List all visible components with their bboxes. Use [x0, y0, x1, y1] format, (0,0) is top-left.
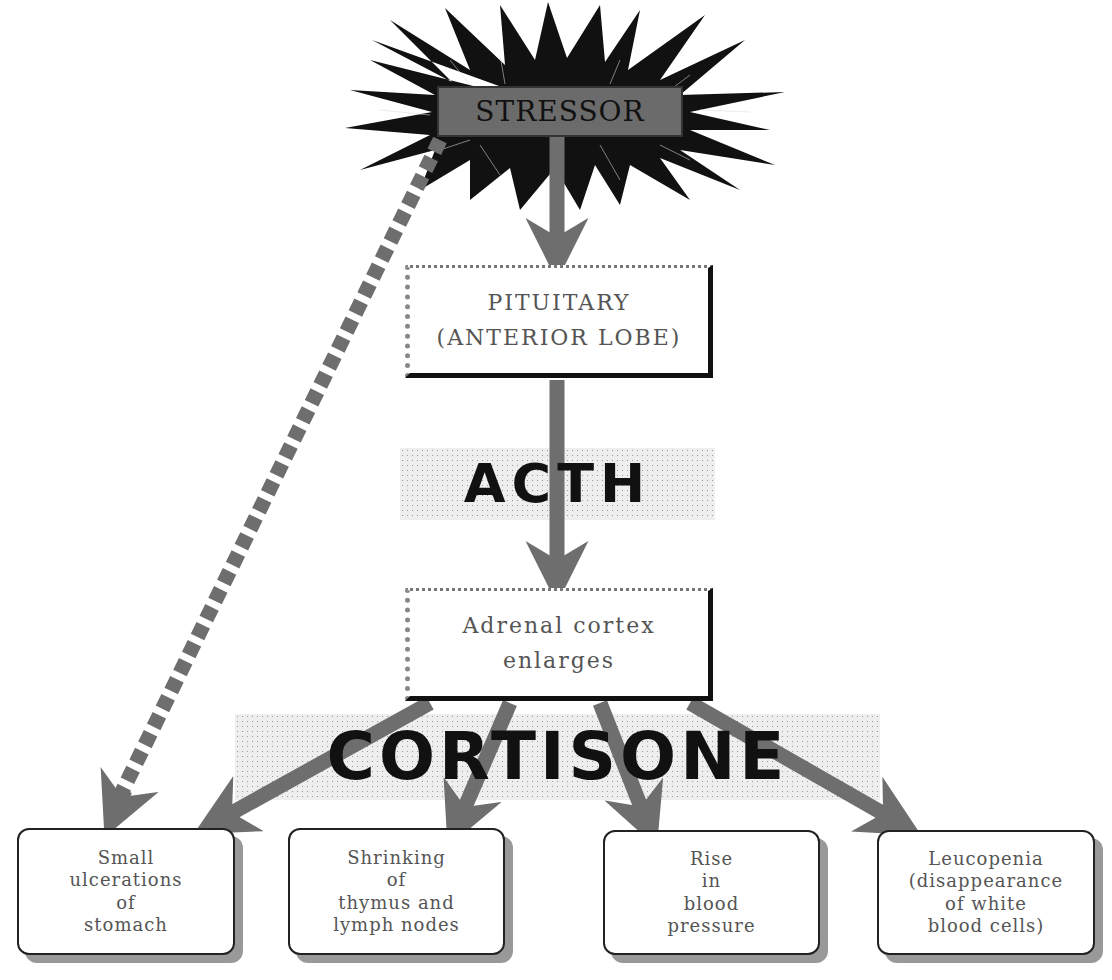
effect-text-line: Rise — [690, 848, 733, 871]
effect-text-line: thymus and — [338, 892, 454, 915]
effect-text-line: (disappearance — [909, 870, 1063, 893]
effect-text-line: of — [116, 892, 136, 915]
effect-box-blood-pressure: Rise in blood pressure — [603, 830, 820, 955]
effect-box-leucopenia: Leucopenia (disappearance of white blood… — [877, 830, 1095, 955]
pituitary-label: PITUITARY — [487, 286, 630, 320]
adrenal-cortex-box: Adrenal cortex enlarges — [405, 588, 713, 701]
effect-text-line: of white — [945, 893, 1027, 916]
cortisone-label: CORTISONE — [235, 718, 880, 795]
pituitary-box: PITUITARY (ANTERIOR LOBE) — [405, 265, 713, 378]
effect-box-stomach-ulcers: Small ulcerations of stomach — [17, 828, 235, 955]
adrenal-label: Adrenal cortex — [462, 609, 655, 643]
effect-text-line: pressure — [667, 915, 755, 938]
effect-text-line: Shrinking — [347, 847, 446, 870]
effect-text-line: stomach — [84, 914, 168, 937]
effect-text-line: blood — [684, 893, 739, 916]
effect-text-line: lymph nodes — [333, 914, 460, 937]
adrenal-sublabel: enlarges — [503, 644, 615, 678]
stressor-label: STRESSOR — [437, 86, 683, 137]
dashed-arrow-stressor-stomach — [118, 140, 440, 800]
effect-text-line: of — [387, 869, 407, 892]
effect-box-thymus-shrinking: Shrinking of thymus and lymph nodes — [288, 828, 505, 955]
effect-text-line: blood cells) — [928, 915, 1045, 938]
effect-text-line: ulcerations — [69, 869, 182, 892]
effect-text-line: in — [702, 870, 721, 893]
effect-text-line: Leucopenia — [928, 848, 1043, 871]
effect-text-line: Small — [98, 847, 155, 870]
acth-label: ACTH — [400, 452, 715, 515]
pituitary-sublabel: (ANTERIOR LOBE) — [437, 321, 682, 355]
